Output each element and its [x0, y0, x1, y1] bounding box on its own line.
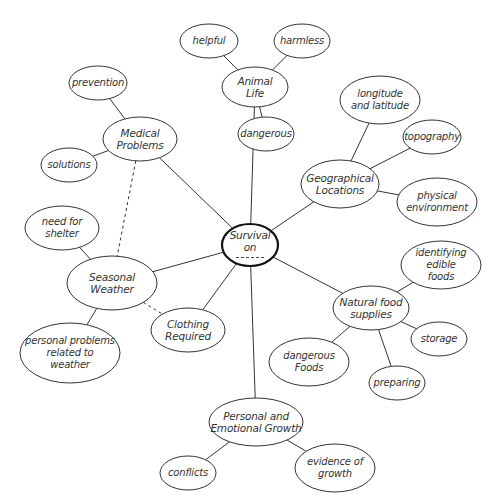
connector-animal-life-to-harmless	[272, 55, 287, 70]
node-dangerous-foods	[269, 338, 349, 386]
node-evidence-of-growth	[295, 444, 375, 492]
connector-natural-food-supplies-to-preparing	[379, 330, 392, 367]
connector-survival-to-clothing-required	[203, 263, 237, 309]
connector-survival-to-seasonal-weather	[153, 252, 224, 272]
node-storage	[411, 322, 467, 356]
node-clothing-required	[151, 308, 225, 352]
node-preparing	[369, 366, 425, 400]
connector-animal-life-to-dangerous	[260, 107, 263, 117]
node-prevention	[69, 66, 127, 100]
node-natural-food-supplies	[333, 286, 409, 330]
connector-medical-problems-to-seasonal-weather	[117, 161, 136, 256]
center-node-survival	[222, 224, 278, 266]
connector-seasonal-weather-to-clothing-required	[143, 302, 162, 314]
connector-geographical-locations-to-topography	[370, 148, 410, 169]
node-geographical-locations	[301, 160, 379, 208]
connector-seasonal-weather-to-personal-problems-weather	[87, 308, 97, 324]
node-topography	[403, 120, 461, 154]
node-medical-problems	[103, 117, 177, 161]
node-personal-emotional-growth	[209, 398, 303, 446]
center-blank-line	[236, 257, 264, 258]
connector-natural-food-supplies-to-storage	[401, 322, 417, 329]
node-helpful	[180, 24, 238, 58]
connector-medical-problems-to-solutions	[93, 151, 109, 157]
node-harmless	[274, 24, 330, 58]
concept-map-canvas	[0, 0, 499, 502]
connector-survival-to-geographical-locations	[271, 202, 314, 231]
connector-survival-to-natural-food-supplies	[273, 257, 343, 293]
connector-survival-to-medical-problems	[159, 158, 232, 229]
connector-medical-problems-to-prevention	[110, 99, 125, 119]
node-animal-life	[222, 67, 288, 107]
connector-natural-food-supplies-to-identifying-edible-foods	[397, 282, 413, 292]
node-solutions	[41, 148, 97, 182]
connector-survival-to-personal-emotional-growth	[251, 266, 256, 398]
node-seasonal-weather	[67, 256, 157, 310]
connector-personal-emotional-growth-to-evidence-of-growth	[287, 440, 306, 451]
node-physical-environment	[397, 178, 477, 226]
connector-seasonal-weather-to-need-for-shelter	[80, 247, 91, 259]
connector-natural-food-supplies-to-dangerous-foods	[332, 326, 350, 342]
connector-geographical-locations-to-longitude-latitude	[351, 123, 369, 161]
node-longitude-latitude	[340, 76, 420, 124]
node-conflicts	[160, 456, 216, 490]
node-dangerous	[238, 117, 294, 151]
node-need-for-shelter	[25, 206, 99, 250]
connector-animal-life-to-helpful	[224, 56, 238, 70]
connector-geographical-locations-to-physical-environment	[377, 191, 399, 195]
connector-personal-emotional-growth-to-conflicts	[206, 442, 230, 460]
node-personal-problems-weather	[20, 323, 120, 383]
node-identifying-edible-foods	[401, 241, 481, 289]
concept-map: Animal LifehelpfulharmlessdangerousMedic…	[0, 0, 499, 502]
